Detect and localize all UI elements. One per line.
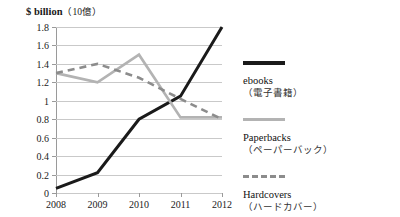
y-tick-label: 0.8 bbox=[37, 114, 50, 125]
series-line-paperbacks bbox=[56, 55, 222, 118]
legend-swatch-icon bbox=[243, 61, 285, 65]
legend-label: Paperbacks bbox=[243, 131, 398, 144]
y-tick-label: 1.6 bbox=[37, 40, 50, 51]
chart-axis-title: $ billion（10億） bbox=[26, 6, 102, 18]
y-tick-label: 0.6 bbox=[37, 132, 50, 143]
series-line-hardcovers bbox=[56, 64, 222, 119]
legend-text: Paperbacks（ペーパーバック） bbox=[243, 131, 398, 157]
legend-item-ebooks[interactable]: ebooks（電子書籍） bbox=[243, 56, 398, 100]
legend-label-jp: （ハードカバー） bbox=[243, 201, 398, 214]
legend-swatch-icon bbox=[243, 175, 285, 178]
legend-swatch-icon bbox=[243, 118, 285, 121]
x-tick-mark bbox=[222, 193, 223, 197]
legend-text: Hardcovers（ハードカバー） bbox=[243, 188, 398, 214]
legend-label: Hardcovers bbox=[243, 188, 398, 201]
legend-item-paperbacks[interactable]: Paperbacks（ペーパーバック） bbox=[243, 113, 398, 157]
series-line-ebooks bbox=[56, 27, 222, 188]
series-layer bbox=[56, 27, 222, 193]
y-tick-label: 1.8 bbox=[37, 22, 50, 33]
y-tick-label: 0.4 bbox=[37, 151, 50, 162]
legend-label-jp: （ペーパーバック） bbox=[243, 144, 398, 157]
legend-label-jp: （電子書籍） bbox=[243, 87, 398, 100]
legend-label: ebooks bbox=[243, 74, 398, 87]
x-tick-label: 2010 bbox=[129, 199, 149, 210]
plot-area: 00.20.40.60.811.21.41.61.8 2008200920102… bbox=[56, 27, 222, 193]
axis-title-jp: （10億） bbox=[62, 7, 102, 17]
axis-title-en: $ billion bbox=[26, 6, 62, 17]
x-tick-label: 2008 bbox=[46, 199, 66, 210]
y-tick-label: 1.4 bbox=[37, 58, 50, 69]
legend-item-hardcovers[interactable]: Hardcovers（ハードカバー） bbox=[243, 170, 398, 214]
legend-text: ebooks（電子書籍） bbox=[243, 74, 398, 100]
x-tick-label: 2009 bbox=[88, 199, 108, 210]
x-tick-mark bbox=[181, 193, 182, 197]
x-tick-label: 2011 bbox=[171, 199, 191, 210]
y-tick-label: 1 bbox=[44, 95, 49, 106]
x-tick-label: 2012 bbox=[212, 199, 232, 210]
x-tick-mark bbox=[56, 193, 57, 197]
chart-legend: ebooks（電子書籍）Paperbacks（ペーパーバック）Hardcover… bbox=[243, 56, 398, 217]
y-tick-label: 0 bbox=[44, 188, 49, 199]
y-tick-label: 1.2 bbox=[37, 77, 50, 88]
x-tick-mark bbox=[139, 193, 140, 197]
chart-figure: $ billion（10億） 00.20.40.60.811.21.41.61.… bbox=[0, 0, 400, 217]
x-tick-mark bbox=[98, 193, 99, 197]
y-tick-label: 0.2 bbox=[37, 169, 50, 180]
